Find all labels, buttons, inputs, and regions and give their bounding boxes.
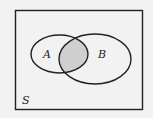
universe-label: S [22, 94, 30, 107]
set-b-label: B [97, 48, 106, 61]
venn-diagram: A B S [0, 0, 153, 118]
set-a-label: A [42, 48, 51, 61]
